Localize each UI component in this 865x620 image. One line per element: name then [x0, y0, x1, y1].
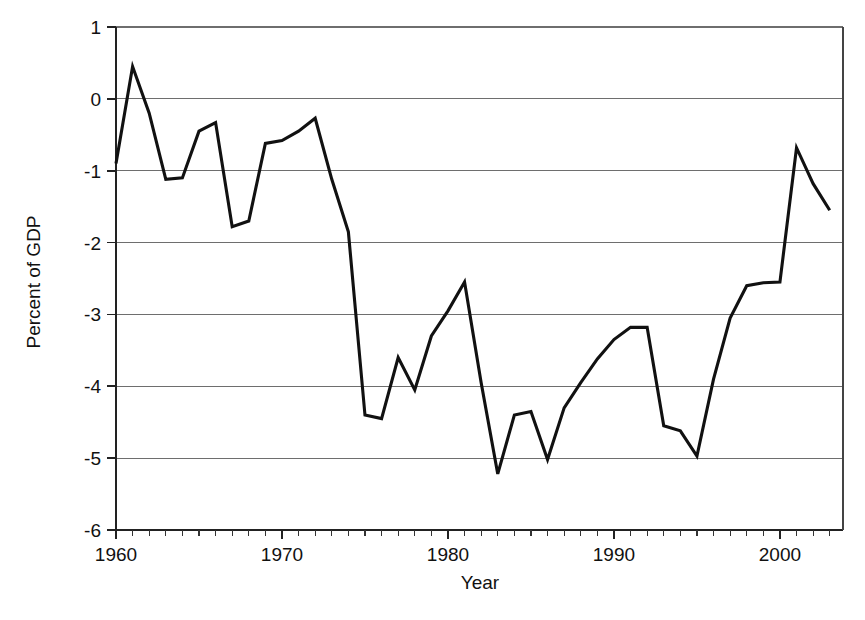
x-axis-title: Year	[461, 572, 500, 593]
y-tick-label--5: -5	[84, 448, 101, 469]
y-tick-label--1: -1	[84, 161, 101, 182]
x-axis-tick-labels: 19601970198019902000	[95, 544, 801, 565]
y-tick-label-1: 1	[90, 17, 101, 38]
y-tick-label--2: -2	[84, 233, 101, 254]
gridlines	[116, 27, 843, 530]
x-tick-label-1970: 1970	[261, 544, 303, 565]
y-tick-label--3: -3	[84, 304, 101, 325]
x-tick-label-1960: 1960	[95, 544, 137, 565]
line-chart: 10-1-2-3-4-5-6 19601970198019902000 Year…	[0, 0, 865, 620]
chart-figure: 10-1-2-3-4-5-6 19601970198019902000 Year…	[0, 0, 865, 620]
y-tick-label-0: 0	[90, 89, 101, 110]
x-tick-label-1990: 1990	[593, 544, 635, 565]
y-axis-title: Percent of GDP	[23, 215, 44, 348]
y-axis-tick-labels: 10-1-2-3-4-5-6	[84, 17, 101, 541]
y-tick-label--6: -6	[84, 520, 101, 541]
data-series-line	[116, 67, 830, 474]
plot-frame	[116, 27, 843, 530]
y-tick-label--4: -4	[84, 376, 101, 397]
x-tick-label-2000: 2000	[759, 544, 801, 565]
x-tick-label-1980: 1980	[427, 544, 469, 565]
y-axis-ticks	[107, 27, 116, 530]
x-axis-ticks	[116, 530, 830, 539]
